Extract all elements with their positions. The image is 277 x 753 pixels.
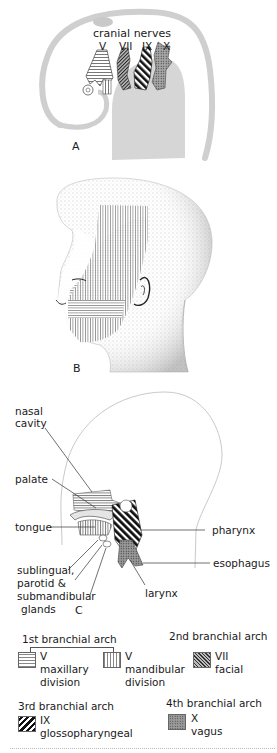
legend-name-mandibular: mandibular <box>125 663 185 675</box>
swatch-vagus <box>168 714 186 730</box>
swatch-glossopharyngeal <box>18 716 36 732</box>
legend-name-glossopharyngeal: glossopharyngeal <box>40 727 133 739</box>
legend-name-mandibular-division: division <box>125 676 165 688</box>
label-larynx: larynx <box>145 587 178 599</box>
panel-letter-c: C <box>75 604 83 617</box>
label-cavity: cavity <box>15 417 47 429</box>
legend-heading-arch4: 4th branchial arch <box>166 697 262 709</box>
sagittal-section-illustration <box>0 0 277 600</box>
legend-name-facial: facial <box>215 663 243 675</box>
legend-nerve-vii: VII <box>215 650 228 662</box>
label-glands-2: parotid & <box>17 577 66 589</box>
legend-heading-arch3: 3rd branchial arch <box>18 700 114 712</box>
swatch-maxillary <box>18 652 36 668</box>
legend-name-maxillary: maxillary <box>40 663 89 675</box>
legend-name-maxillary-division: division <box>40 676 80 688</box>
legend-name-vagus: vagus <box>191 725 222 737</box>
legend-nerve-ix: IX <box>40 714 50 726</box>
label-pharynx: pharynx <box>212 524 255 536</box>
label-nasal: nasal <box>15 405 43 417</box>
label-glands-3: submandibular <box>17 590 96 602</box>
label-glands-4: glands <box>21 603 56 615</box>
label-tongue: tongue <box>15 521 52 533</box>
label-esophagus: esophagus <box>213 557 270 569</box>
label-glands-1: sublingual, <box>17 564 74 576</box>
legend-heading-arch2: 2nd branchial arch <box>169 630 267 642</box>
cropped-caption-line <box>10 748 275 752</box>
legend-nerve-v-mandibular: V <box>125 650 132 662</box>
label-palate: palate <box>15 473 48 485</box>
legend-nerve-v-maxillary: V <box>40 650 47 662</box>
legend-nerve-x: X <box>191 712 198 724</box>
swatch-facial <box>193 652 211 668</box>
swatch-mandibular <box>103 652 121 668</box>
legend-heading-arch1: 1st branchial arch <box>22 633 117 645</box>
